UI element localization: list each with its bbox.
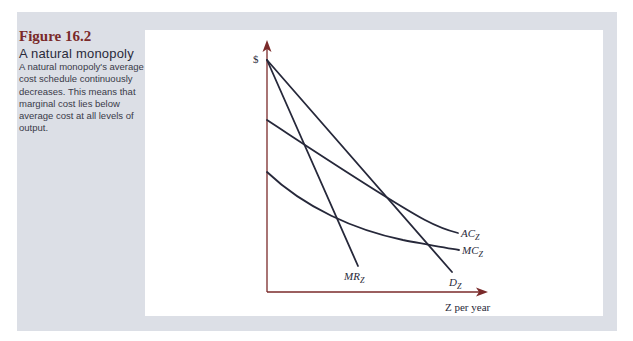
mr-label: MRZ [343,270,365,285]
ac-label: ACZ [460,227,480,242]
axes [263,40,489,297]
x-axis-label: Z per year [445,301,491,313]
curves [267,60,459,272]
figure-title: A natural monopoly [19,47,144,60]
chart-area: $ Z per year ACZ MCZ DZ MRZ [145,30,603,316]
mc-curve [267,172,459,250]
figure-description: A natural monopoly's average cost schedu… [19,61,144,135]
y-axis-label: $ [253,53,259,65]
demand-label: DZ [448,276,462,291]
natural-monopoly-chart: $ Z per year ACZ MCZ DZ MRZ [145,30,603,316]
figure-panel: Figure 16.2 A natural monopoly A natural… [17,12,617,331]
figure-label: Figure 16.2 [19,28,144,45]
demand-curve [267,60,452,272]
figure-caption: Figure 16.2 A natural monopoly A natural… [19,28,144,135]
mr-curve [267,60,358,266]
ac-curve [267,120,458,233]
mc-label: MCZ [461,244,484,259]
